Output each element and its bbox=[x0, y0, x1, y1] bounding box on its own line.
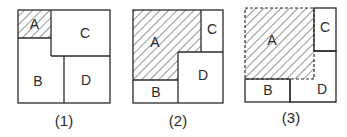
panel-2-label-d: D bbox=[198, 67, 208, 83]
panel-1: A C B D (1) bbox=[18, 10, 110, 129]
panel-3-region-a-hatch bbox=[245, 8, 314, 79]
panel-2-caption: (2) bbox=[169, 112, 187, 129]
panel-3-label-c: C bbox=[320, 19, 330, 35]
figure-canvas: A C B D (1) A C B D (2) A C bbox=[0, 0, 347, 137]
panel-3-label-b: B bbox=[263, 82, 272, 98]
panel-2-label-a: A bbox=[150, 34, 160, 50]
panel-1-label-c: C bbox=[80, 25, 90, 41]
panel-1-label-b: B bbox=[33, 73, 42, 89]
panel-2-label-b: B bbox=[151, 84, 160, 100]
panel-1-label-d: D bbox=[81, 72, 91, 88]
panel-3-label-d: D bbox=[317, 81, 327, 97]
panel-2-label-c: C bbox=[207, 21, 217, 37]
panel-3-label-a: A bbox=[267, 32, 277, 48]
panel-3: A C B D (3) bbox=[245, 8, 336, 126]
panel-1-label-a: A bbox=[30, 16, 40, 32]
panel-2: A C B D (2) bbox=[133, 10, 223, 129]
panel-1-caption: (1) bbox=[55, 112, 73, 129]
panel-3-caption: (3) bbox=[282, 109, 300, 126]
